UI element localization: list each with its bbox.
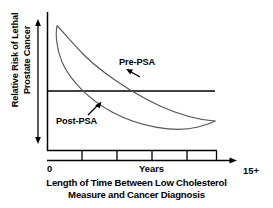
y-axis-label-line-2: Prostate Cancer (22, 0, 34, 125)
pre-psa-annotation-arrow (126, 69, 140, 77)
x-axis-unit-label: Years (139, 163, 164, 174)
series-curve-post-psa (56, 26, 215, 129)
x-axis-start-label: 0 (47, 163, 52, 174)
series-label-pre-psa: Pre-PSA (119, 57, 155, 67)
y-axis-label-line-1: Relative Risk of Lethal (10, 0, 22, 125)
chart-title-line-2: Measure and Cancer Diagnosis (0, 189, 273, 201)
x-axis-ticks (82, 151, 217, 160)
chart-figure: Relative Risk of Lethal Prostate Cancer … (0, 0, 273, 208)
series-label-post-psa: Post-PSA (56, 116, 97, 126)
chart-title: Length of Time Between Low Cholesterol M… (0, 177, 273, 202)
post-psa-annotation-arrow (88, 102, 102, 116)
series-curve-pre-psa (57, 26, 215, 121)
chart-title-line-1: Length of Time Between Low Cholesterol (0, 177, 273, 189)
x-axis-end-label: 15+ (243, 165, 259, 176)
y-axis-label: Relative Risk of Lethal Prostate Cancer (10, 0, 36, 125)
